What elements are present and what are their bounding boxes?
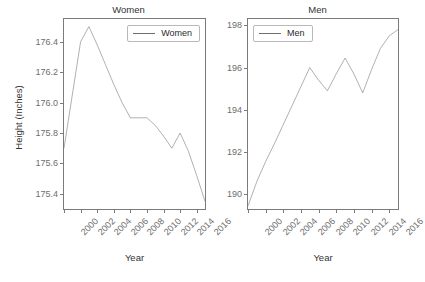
data-line-women	[64, 27, 205, 202]
x-tick-mark-men-2012	[354, 209, 355, 213]
x-tick-label-men-2012: 2012	[369, 216, 390, 237]
x-tick-label-men-2010: 2010	[351, 216, 372, 237]
line-chart-women	[64, 19, 205, 209]
x-tick-label-men-2000: 2000	[263, 216, 284, 237]
y-tick-women-175.8: 175.8	[35, 128, 64, 138]
y-tick-women-176.4: 176.4	[35, 37, 64, 47]
panel-women: Women Women 176.4176.2176.0175.8175.6175…	[14, 0, 207, 282]
y-tick-women-175.6: 175.6	[35, 158, 64, 168]
x-tick-label-women-2004: 2004	[112, 216, 133, 237]
x-tick-mark-women-2006	[114, 209, 115, 213]
y-tick-women-176.2: 176.2	[35, 67, 64, 77]
legend-line-swatch-women	[133, 33, 155, 34]
x-tick-mark-men-2010	[336, 209, 337, 213]
legend-men: Men	[253, 25, 313, 42]
x-tick-label-men-2004: 2004	[298, 216, 319, 237]
plot-area-women: Women 176.4176.2176.0175.8175.6175.42000…	[63, 18, 206, 210]
x-tick-label-women-2012: 2012	[178, 216, 199, 237]
x-tick-label-women-2000: 2000	[79, 216, 100, 237]
x-tick-mark-men-2006	[301, 209, 302, 213]
x-tick-label-men-2002: 2002	[281, 216, 302, 237]
legend-line-swatch-men	[259, 33, 281, 34]
x-tick-label-men-2008: 2008	[333, 216, 354, 237]
x-tick-mark-women-2016	[197, 209, 198, 213]
y-tick-men-198: 198	[227, 20, 248, 30]
y-tick-men-194: 194	[227, 105, 248, 115]
data-line-men	[248, 30, 398, 206]
x-tick-label-men-2016: 2016	[404, 216, 425, 237]
plot-area-men: Men 198196194192190200020022004200620082…	[247, 18, 399, 210]
y-tick-men-192: 192	[227, 147, 248, 157]
x-tick-mark-men-2002	[266, 209, 267, 213]
x-tick-mark-women-2008	[130, 209, 131, 213]
x-tick-mark-men-2014	[372, 209, 373, 213]
x-tick-label-men-2014: 2014	[386, 216, 407, 237]
x-tick-mark-men-2004	[283, 209, 284, 213]
x-tick-mark-women-2012	[164, 209, 165, 213]
panel-title-men: Men	[207, 4, 400, 15]
x-tick-mark-women-2002	[81, 209, 82, 213]
x-tick-mark-men-2016	[389, 209, 390, 213]
line-chart-men	[248, 19, 398, 209]
y-tick-men-190: 190	[227, 189, 248, 199]
x-tick-mark-men-2000	[248, 209, 249, 213]
legend-label-men: Men	[287, 29, 305, 38]
y-tick-women-176.0: 176.0	[35, 98, 64, 108]
y-tick-men-196: 196	[227, 63, 248, 73]
panel-men: Men Men 19819619419219020002002200420062…	[207, 0, 400, 282]
y-tick-women-175.4: 175.4	[35, 189, 64, 199]
x-tick-label-women-2010: 2010	[162, 216, 183, 237]
x-tick-mark-women-2004	[97, 209, 98, 213]
x-tick-mark-men-2008	[319, 209, 320, 213]
x-axis-title-women: Year	[63, 252, 206, 263]
x-tick-mark-women-2010	[147, 209, 148, 213]
x-tick-label-men-2006: 2006	[316, 216, 337, 237]
panel-title-women: Women	[14, 4, 207, 15]
x-axis-title-men: Year	[247, 252, 399, 263]
x-tick-label-women-2008: 2008	[145, 216, 166, 237]
legend-label-women: Women	[161, 29, 192, 38]
x-tick-mark-women-2014	[180, 209, 181, 213]
legend-women: Women	[127, 25, 200, 42]
x-tick-mark-women-2000	[64, 209, 65, 213]
